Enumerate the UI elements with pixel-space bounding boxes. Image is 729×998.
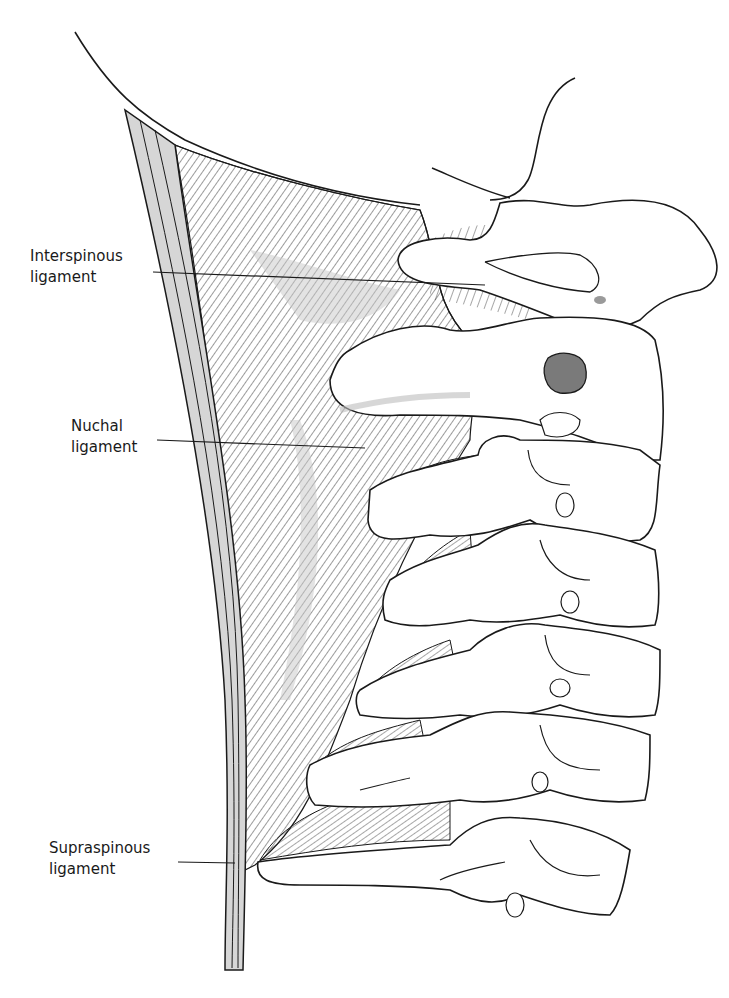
vertebral-foramen xyxy=(544,353,586,393)
nuchal-ligament-label: Nuchal ligament xyxy=(71,416,137,458)
supraspinous-ligament-label: Supraspinous ligament xyxy=(49,838,150,880)
c6-vertebra xyxy=(307,712,650,807)
interspinous-ligament-label: Interspinous ligament xyxy=(30,246,123,288)
mastoid-outline xyxy=(490,78,575,200)
c5-vertebra xyxy=(356,624,660,719)
c4-vertebra xyxy=(383,524,659,627)
